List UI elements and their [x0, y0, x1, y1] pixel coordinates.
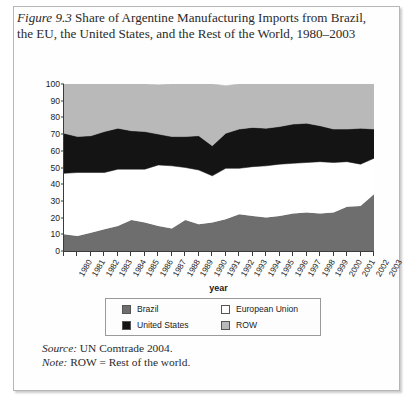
source-text: UN Comtrade 2004. [77, 342, 173, 354]
x-tick-label: 1986 [158, 258, 175, 278]
y-tick-label: 20 [50, 213, 60, 223]
x-tick-label: 1988 [185, 258, 202, 278]
y-tick-label: 30 [50, 196, 60, 206]
legend-item-row: ROW [221, 320, 320, 330]
chart-legend: Brazil European Union United States ROW [105, 298, 321, 336]
note-text: ROW = Rest of the world. [67, 356, 190, 368]
y-tick-label: 100 [46, 79, 60, 89]
legend-label-united-states: United States [137, 320, 189, 330]
y-tick-label: 60 [50, 146, 60, 156]
figure-page: Figure 9.3 Share of Argentine Manufactur… [0, 0, 420, 403]
legend-label-european-union: European Union [236, 304, 298, 314]
y-tick-label: 10 [50, 229, 60, 239]
legend-item-european-union: European Union [221, 304, 320, 314]
y-axis-ticks: 0102030405060708090100 [39, 84, 63, 251]
chart-area: percent 0102030405060708090100 198019811… [33, 84, 383, 294]
y-tick-label: 0 [55, 246, 60, 256]
legend-swatch-european-union [221, 305, 230, 314]
x-tick-label: 1990 [212, 258, 229, 278]
source-line: Source: UN Comtrade 2004. [42, 341, 372, 355]
legend-item-brazil: Brazil [122, 304, 221, 314]
stacked-area-svg [64, 84, 374, 251]
x-tick-label: 1980 [77, 258, 94, 278]
x-axis-tick-labels: 1980198119821983198419851986198719881989… [63, 256, 378, 286]
note-label: Note: [42, 356, 67, 368]
plot-region [63, 84, 374, 252]
y-tick-label: 90 [50, 96, 60, 106]
x-tick-label: 1992 [239, 258, 256, 278]
legend-swatch-brazil [122, 305, 131, 314]
x-tick-label: 1996 [293, 258, 310, 278]
x-tick-label: 2000 [347, 258, 364, 278]
x-tick-label: 1994 [266, 258, 283, 278]
x-tick-label: 1984 [131, 258, 148, 278]
legend-swatch-row [221, 321, 230, 330]
source-label: Source: [42, 342, 77, 354]
y-tick-label: 40 [50, 179, 60, 189]
legend-item-united-states: United States [122, 320, 221, 330]
x-tick-label: 1982 [104, 258, 121, 278]
note-line: Note: ROW = Rest of the world. [42, 355, 372, 369]
x-axis-title: year [63, 283, 374, 293]
y-tick-label: 50 [50, 163, 60, 173]
figure-caption: Figure 9.3 Share of Argentine Manufactur… [17, 10, 377, 42]
figure-number: Figure 9.3 [17, 10, 72, 25]
figure-notes: Source: UN Comtrade 2004. Note: ROW = Re… [42, 341, 372, 369]
y-tick-label: 80 [50, 112, 60, 122]
x-tick-label: 1998 [320, 258, 337, 278]
legend-swatch-united-states [122, 321, 131, 330]
legend-label-row: ROW [236, 320, 257, 330]
legend-label-brazil: Brazil [137, 304, 159, 314]
y-tick-label: 70 [50, 129, 60, 139]
